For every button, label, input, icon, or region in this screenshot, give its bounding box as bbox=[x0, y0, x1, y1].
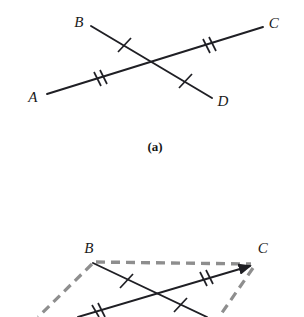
segment-BD-lower bbox=[93, 263, 207, 317]
geometry-figure-container: A B C D (a) B C bbox=[0, 0, 304, 317]
tick-BO-single-icon bbox=[118, 38, 131, 52]
label-a-point-C: C bbox=[269, 16, 279, 31]
panel-a-group bbox=[47, 26, 263, 98]
geometry-diagram-svg bbox=[0, 0, 304, 317]
dashed-CD bbox=[219, 268, 253, 317]
label-a-point-B: B bbox=[74, 15, 83, 30]
segment-AC bbox=[47, 27, 263, 94]
tick-OD-lower-single-icon bbox=[174, 298, 187, 312]
label-a-point-D: D bbox=[217, 94, 228, 109]
dashed-BA bbox=[38, 264, 92, 317]
label-a-point-A: A bbox=[28, 90, 37, 105]
dashed-BC bbox=[96, 262, 251, 264]
segment-BD bbox=[91, 26, 212, 98]
label-b-point-B: B bbox=[84, 241, 93, 256]
panel-b-group bbox=[38, 262, 253, 317]
label-b-point-C: C bbox=[258, 241, 268, 256]
panel-a-caption: (a) bbox=[147, 140, 162, 153]
